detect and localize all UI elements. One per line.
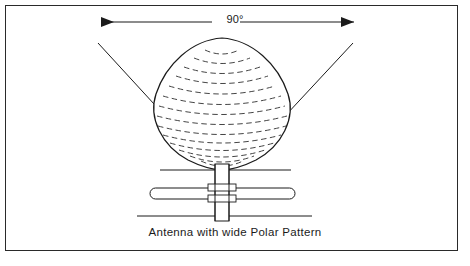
polar-lobe-outline bbox=[154, 38, 290, 170]
figure-caption: Antenna with wide Polar Pattern bbox=[0, 226, 470, 238]
antenna-mast bbox=[215, 164, 229, 221]
polar-lobe bbox=[154, 38, 290, 170]
mounting-bracket-lower bbox=[208, 195, 236, 202]
antenna-polar-pattern-figure: 90° Antenna with wide Polar Pattern bbox=[0, 0, 470, 266]
beamwidth-label: 90° bbox=[0, 13, 470, 25]
antenna-assembly bbox=[137, 164, 312, 221]
mounting-bracket-upper bbox=[208, 184, 236, 191]
